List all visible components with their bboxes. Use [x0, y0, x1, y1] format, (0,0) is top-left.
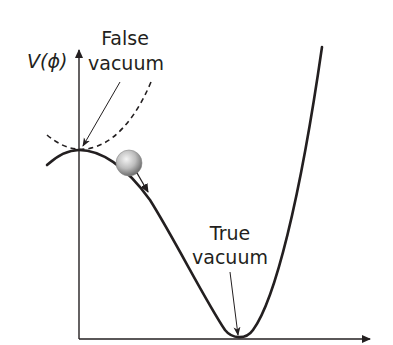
false-vacuum-label-line1: False: [101, 27, 149, 49]
y-axis-label: V(ϕ): [27, 50, 67, 72]
vacuum-potential-diagram: V(ϕ) False vacuum True vacuum: [0, 0, 393, 345]
ball-icon: [116, 150, 142, 176]
true-vacuum-pointer: [230, 272, 238, 335]
potential-curve: [47, 47, 322, 337]
false-vacuum-parabola: [47, 82, 151, 149]
true-vacuum-label-line1: True: [209, 222, 250, 244]
false-vacuum-label-line2: vacuum: [88, 52, 164, 74]
true-vacuum-label-line2: vacuum: [192, 246, 268, 268]
